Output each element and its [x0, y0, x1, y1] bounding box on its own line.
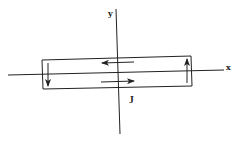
- current-label: J: [129, 93, 134, 103]
- y-axis: [116, 9, 120, 134]
- x-axis-label: x: [226, 62, 231, 72]
- y-axis-label: y: [107, 8, 113, 18]
- bottom-arrow-right-icon: [101, 81, 134, 82]
- top-arrow-left-icon: [102, 62, 134, 63]
- diagram-canvas: y x J: [0, 0, 239, 143]
